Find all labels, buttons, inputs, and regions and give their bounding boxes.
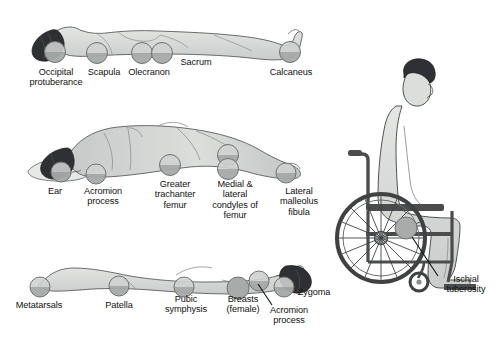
label-olecranon: Olecranon [118, 67, 180, 77]
point-acromion-process [86, 164, 106, 184]
point-greater-trachanter [160, 155, 181, 176]
label-sacrum: Sacrum [168, 57, 224, 67]
point-ischial-tuberosity [395, 217, 417, 239]
point-acromion-prone [249, 271, 269, 291]
point-calcaneus [280, 42, 301, 63]
label-acromion-process: Acromion process [72, 186, 134, 207]
point-scapula [87, 43, 108, 64]
label-patella: Patella [94, 300, 144, 310]
point-patella [109, 276, 129, 296]
pressure-points-figure: Occipital protuberance Scapula Olecranon… [0, 0, 502, 351]
label-metatarsals: Metatarsals [8, 300, 70, 310]
label-greater-trachanter-femur: Greater trachanter femur [144, 179, 206, 210]
label-acromion-process-prone: Acromion process [258, 305, 320, 326]
label-lateral-malleolus-fibula: Lateral malleolus fibula [268, 186, 330, 217]
label-medial-lateral-condyles-femur: Medial & lateral condyles of femur [202, 179, 268, 221]
point-metatarsals [30, 277, 50, 297]
point-occipital-protuberance [45, 42, 66, 63]
label-pubic-symphysis: Pubic symphysis [155, 294, 217, 315]
label-ischial-tuberosity: Ischial tuberosity [434, 274, 498, 295]
wheelchair-figure-art [337, 59, 476, 291]
point-ear [51, 162, 71, 182]
label-calcaneus: Calcaneus [260, 67, 322, 77]
point-lateral-condyle [218, 159, 239, 180]
wheelchair-wheel [337, 194, 425, 282]
label-zygoma: Zygoma [288, 287, 340, 297]
label-ear: Ear [38, 186, 72, 196]
point-lateral-malleolus [276, 163, 296, 183]
point-olecranon [132, 43, 153, 64]
